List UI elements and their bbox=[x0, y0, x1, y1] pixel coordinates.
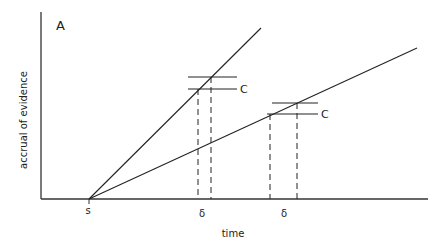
origin-label: s bbox=[85, 205, 90, 216]
deadline-label-right: δ bbox=[281, 208, 287, 219]
panel-label: A bbox=[56, 18, 65, 33]
shallow-accumulation-line bbox=[89, 48, 417, 199]
threshold-label-left: C bbox=[240, 83, 248, 96]
deadline-label-left: δ bbox=[199, 208, 205, 219]
diagram-canvas: A accrual of evidence time s C C δ δ bbox=[0, 0, 446, 250]
threshold-label-right: C bbox=[321, 108, 329, 121]
x-axis-label: time bbox=[222, 228, 245, 239]
y-axis-label: accrual of evidence bbox=[18, 71, 29, 169]
steep-accumulation-line bbox=[89, 28, 261, 199]
